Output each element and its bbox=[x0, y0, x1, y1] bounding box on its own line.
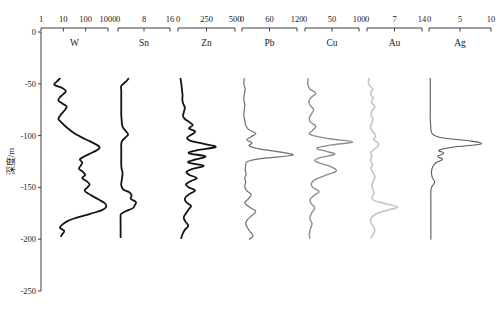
panel-au: 0714Au bbox=[365, 14, 427, 238]
x-tick-label-ag: 10 bbox=[487, 14, 496, 24]
depth-profile-figure: 0-50-100-150-200-250深度/m 1101001000W0816… bbox=[0, 0, 504, 310]
panel-title-w: W bbox=[70, 38, 79, 48]
x-tick-label-cu: 50 bbox=[328, 14, 337, 24]
depth-axis-title: 深度/m bbox=[5, 148, 16, 176]
panel-title-zn: Zn bbox=[201, 38, 212, 48]
curve-pb bbox=[244, 79, 293, 240]
x-tick-label-cu: 100 bbox=[353, 14, 366, 24]
depth-tick-label: -250 bbox=[20, 286, 36, 296]
x-tick-label-w: 1000 bbox=[100, 14, 117, 24]
panel-title-pb: Pb bbox=[264, 38, 274, 48]
x-tick-label-w: 1 bbox=[39, 14, 43, 24]
element-panels: 1101001000W0816Sn0250500Zn060120Pb050100… bbox=[39, 14, 495, 239]
panel-cu: 050100Cu bbox=[303, 14, 366, 238]
x-tick-label-w: 100 bbox=[79, 14, 92, 24]
panel-w: 1101001000W bbox=[39, 14, 117, 236]
panel-title-au: Au bbox=[389, 38, 401, 48]
panel-title-sn: Sn bbox=[139, 38, 149, 48]
x-tick-label-w: 10 bbox=[59, 14, 68, 24]
depth-tick-label: -50 bbox=[25, 79, 36, 89]
depth-axis: 0-50-100-150-200-250深度/m bbox=[5, 27, 41, 296]
depth-tick-label: -100 bbox=[20, 131, 36, 141]
depth-tick-label: -150 bbox=[20, 182, 36, 192]
curve-w bbox=[54, 79, 106, 236]
curve-ag bbox=[430, 79, 481, 240]
x-tick-label-ag: 0 bbox=[427, 14, 431, 24]
curve-au bbox=[368, 79, 397, 239]
x-tick-label-au: 0 bbox=[365, 14, 369, 24]
x-tick-label-zn: 250 bbox=[200, 14, 213, 24]
panel-title-cu: Cu bbox=[326, 38, 337, 48]
x-tick-label-ag: 5 bbox=[458, 14, 462, 24]
x-tick-label-pb: 0 bbox=[240, 14, 244, 24]
x-tick-label-au: 7 bbox=[392, 14, 396, 24]
x-tick-label-sn: 8 bbox=[142, 14, 146, 24]
x-tick-label-sn: 16 bbox=[166, 14, 175, 24]
panel-title-ag: Ag bbox=[454, 38, 466, 48]
depth-tick-label: -200 bbox=[20, 234, 36, 244]
x-tick-label-sn: 0 bbox=[116, 14, 120, 24]
x-tick-label-pb: 60 bbox=[265, 14, 274, 24]
x-tick-label-cu: 0 bbox=[303, 14, 307, 24]
curve-sn bbox=[120, 79, 136, 238]
x-tick-label-pb: 120 bbox=[291, 14, 304, 24]
curve-zn bbox=[181, 79, 216, 239]
panel-zn: 0250500Zn bbox=[176, 14, 242, 238]
x-tick-label-zn: 0 bbox=[176, 14, 180, 24]
panel-pb: 060120Pb bbox=[240, 14, 304, 239]
panel-sn: 0816Sn bbox=[116, 14, 174, 237]
panel-ag: 0510Ag bbox=[427, 14, 495, 239]
multi-element-depth-profile-chart: 0-50-100-150-200-250深度/m 1101001000W0816… bbox=[0, 0, 504, 310]
x-tick-label-au: 14 bbox=[418, 14, 427, 24]
curve-cu bbox=[308, 79, 353, 239]
depth-tick-label: 0 bbox=[32, 27, 36, 37]
